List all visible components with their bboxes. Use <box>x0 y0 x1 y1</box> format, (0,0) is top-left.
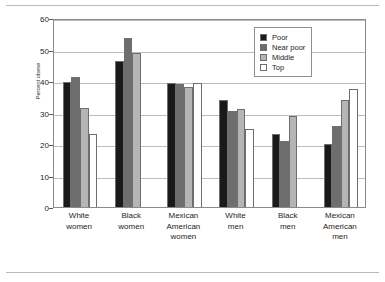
bar-group <box>63 20 97 207</box>
x-axis-category-label: Whitewomen <box>53 211 105 232</box>
x-axis-category-label: Whitemen <box>210 211 262 232</box>
legend-label: Top <box>272 63 284 72</box>
y-tick-label: 60 <box>27 15 49 24</box>
legend-label: Near poor <box>272 43 305 52</box>
gridline <box>54 146 365 147</box>
page-rule-top <box>6 5 379 6</box>
bar <box>228 111 237 207</box>
x-axis-category-line: White <box>53 211 105 222</box>
obesity-bar-chart: Percent obese 0102030405060 WhitewomenBl… <box>0 0 385 282</box>
x-axis-category-line: American <box>314 222 366 233</box>
x-axis-category-label: MexicanAmericanmen <box>314 211 366 243</box>
y-tick-label: 10 <box>27 172 49 181</box>
y-tick-label: 20 <box>27 141 49 150</box>
y-tick-label: 40 <box>27 78 49 87</box>
bar <box>332 126 341 207</box>
y-tick-label: 30 <box>27 109 49 118</box>
x-axis-category-line: White <box>210 211 262 222</box>
x-axis-category-line: men <box>210 222 262 233</box>
bar <box>245 129 254 207</box>
bar <box>167 83 176 207</box>
bar <box>115 61 124 207</box>
bar <box>80 108 89 207</box>
x-axis-labels: WhitewomenBlackwomenMexicanAmericanwomen… <box>53 211 366 257</box>
y-tick-mark <box>49 208 53 209</box>
bar <box>289 116 298 207</box>
x-axis-category-line: Mexican <box>314 211 366 222</box>
legend-label: Middle <box>272 53 294 62</box>
legend-item: Poor <box>260 32 305 42</box>
bar <box>184 87 193 207</box>
y-axis-ticks: 0102030405060 <box>25 19 49 208</box>
bar-group <box>219 20 253 207</box>
gridline <box>54 83 365 84</box>
x-axis-category-label: Blackwomen <box>105 211 157 232</box>
bar <box>349 89 358 207</box>
x-axis-category-line: men <box>314 232 366 243</box>
gridline <box>54 52 365 53</box>
bar <box>237 109 246 207</box>
legend-label: Poor <box>272 33 288 42</box>
gridline <box>54 20 365 21</box>
bar-group <box>324 20 358 207</box>
x-axis-category-line: women <box>105 222 157 233</box>
legend-swatch-icon <box>260 64 267 71</box>
bar <box>324 144 333 207</box>
x-axis-category-line: women <box>53 222 105 233</box>
bar-group <box>167 20 201 207</box>
bar <box>272 134 281 207</box>
gridline <box>54 115 365 116</box>
bar-group <box>115 20 149 207</box>
x-axis-category-line: men <box>262 222 314 233</box>
x-axis-category-line: Black <box>105 211 157 222</box>
bar <box>89 134 98 207</box>
gridline <box>54 178 365 179</box>
bar <box>193 83 202 207</box>
bar <box>341 100 350 207</box>
plot-area <box>53 19 366 208</box>
bar <box>219 100 228 207</box>
x-axis-category-line: Mexican <box>157 211 209 222</box>
y-tick-label: 50 <box>27 46 49 55</box>
x-axis-category-line: women <box>157 232 209 243</box>
bar <box>63 82 72 207</box>
y-tick-label: 0 <box>27 204 49 213</box>
legend-item: Near poor <box>260 42 305 52</box>
bar <box>280 141 289 207</box>
legend-swatch-icon <box>260 34 267 41</box>
x-axis-category-label: MexicanAmericanwomen <box>157 211 209 243</box>
bar <box>132 53 141 207</box>
x-axis-category-label: Blackmen <box>262 211 314 232</box>
bar <box>71 77 80 207</box>
page-rule-bottom <box>6 272 379 273</box>
legend-item: Middle <box>260 52 305 62</box>
bar <box>176 84 185 207</box>
legend-item: Top <box>260 62 305 72</box>
x-axis-category-line: American <box>157 222 209 233</box>
bar <box>124 38 133 207</box>
chart-legend: PoorNear poorMiddleTop <box>254 27 312 77</box>
legend-swatch-icon <box>260 54 267 61</box>
x-axis-category-line: Black <box>262 211 314 222</box>
legend-swatch-icon <box>260 44 267 51</box>
